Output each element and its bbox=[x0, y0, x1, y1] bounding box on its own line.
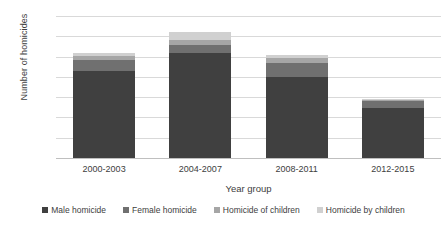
bar-segment[interactable] bbox=[362, 101, 424, 108]
legend-label: Female homicide bbox=[132, 205, 197, 215]
stacked-bar-chart: Number of homicides 01002003004005006007… bbox=[0, 0, 447, 232]
x-tick-label: 2004-2007 bbox=[145, 164, 255, 174]
bar-segment[interactable] bbox=[169, 45, 231, 52]
bar-segment[interactable] bbox=[73, 60, 135, 71]
bars-layer bbox=[56, 16, 441, 158]
gridline bbox=[56, 158, 441, 159]
legend-swatch-icon bbox=[317, 207, 323, 213]
x-axis-title: Year group bbox=[56, 183, 441, 194]
bar-segment[interactable] bbox=[266, 77, 328, 158]
x-tick-label: 2000-2003 bbox=[49, 164, 159, 174]
plot-area bbox=[56, 16, 441, 158]
bar-column[interactable] bbox=[73, 53, 135, 158]
legend-item[interactable]: Homicide of children bbox=[214, 205, 300, 215]
legend-swatch-icon bbox=[42, 207, 48, 213]
legend-item[interactable]: Homicide by children bbox=[317, 205, 405, 215]
bar-segment[interactable] bbox=[73, 71, 135, 158]
bar-segment[interactable] bbox=[266, 63, 328, 77]
legend-label: Homicide of children bbox=[223, 205, 300, 215]
y-axis-title: Number of homicides bbox=[19, 0, 29, 122]
legend-swatch-icon bbox=[214, 207, 220, 213]
legend-item[interactable]: Female homicide bbox=[123, 205, 197, 215]
legend-label: Male homicide bbox=[51, 205, 106, 215]
bar-segment[interactable] bbox=[169, 32, 231, 40]
bar-segment[interactable] bbox=[169, 53, 231, 158]
bar-column[interactable] bbox=[266, 55, 328, 158]
bar-column[interactable] bbox=[169, 32, 231, 158]
x-tick-label: 2012-2015 bbox=[338, 164, 447, 174]
legend-swatch-icon bbox=[123, 207, 129, 213]
legend-label: Homicide by children bbox=[326, 205, 405, 215]
bar-column[interactable] bbox=[362, 99, 424, 158]
bar-segment[interactable] bbox=[362, 108, 424, 158]
x-tick-label: 2008-2011 bbox=[242, 164, 352, 174]
legend-item[interactable]: Male homicide bbox=[42, 205, 106, 215]
chart-legend: Male homicideFemale homicideHomicide of … bbox=[0, 205, 447, 215]
